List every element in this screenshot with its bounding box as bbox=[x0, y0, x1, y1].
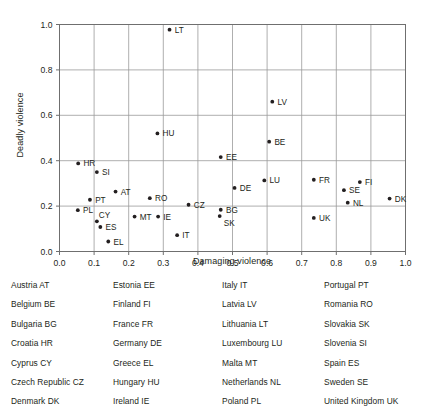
data-point-label: HR bbox=[83, 159, 95, 168]
y-tick-label: 0.6 bbox=[41, 110, 53, 120]
grid-lines bbox=[60, 25, 406, 252]
country-key-item: Spain ES bbox=[324, 354, 398, 373]
data-point-label: FI bbox=[365, 178, 372, 187]
y-axis-title: Deadly violence bbox=[15, 65, 25, 185]
country-key-item: Estonia EE bbox=[113, 276, 162, 295]
data-point-label: LT bbox=[175, 26, 184, 35]
country-key-column-1: Austria ATBelgium BEBulgaria BGCroatia H… bbox=[11, 276, 84, 412]
scatter-plot-canvas: 0.00.10.20.30.40.50.60.70.80.91.00.00.20… bbox=[0, 0, 422, 272]
data-point-label: LU bbox=[270, 176, 281, 185]
country-key-item: United Kingdom UK bbox=[324, 392, 398, 411]
country-key-item: Slovakia SK bbox=[324, 315, 398, 334]
data-point-label: RO bbox=[155, 194, 167, 203]
data-point-si: SI bbox=[95, 168, 110, 177]
data-point-label: CY bbox=[99, 211, 111, 220]
data-point-it: IT bbox=[175, 231, 189, 240]
country-key-item: Portugal PT bbox=[324, 276, 398, 295]
data-point-marker bbox=[312, 216, 316, 220]
data-point-label: AT bbox=[121, 188, 131, 197]
country-key-item: Belgium BE bbox=[11, 295, 84, 314]
data-point-label: FR bbox=[319, 176, 330, 185]
data-point-marker bbox=[219, 208, 223, 212]
data-point-lv: LV bbox=[270, 98, 287, 107]
data-point-marker bbox=[133, 215, 137, 219]
data-point-marker bbox=[233, 186, 237, 190]
data-point-cz: CZ bbox=[187, 201, 205, 210]
data-point-marker bbox=[156, 215, 160, 219]
data-point-label: SI bbox=[102, 168, 110, 177]
data-point-label: DE bbox=[240, 184, 252, 193]
data-point-marker bbox=[219, 155, 223, 159]
data-point-marker bbox=[76, 162, 80, 166]
data-point-marker bbox=[156, 132, 160, 136]
data-point-marker bbox=[98, 225, 102, 229]
x-axis-title: Damaging violence bbox=[59, 256, 405, 266]
country-key-item: France FR bbox=[113, 315, 162, 334]
y-tick-label: 1.0 bbox=[41, 20, 53, 30]
country-key-item: Slovenia SI bbox=[324, 334, 398, 353]
data-point-label: ES bbox=[106, 223, 117, 232]
data-point-label: HU bbox=[163, 129, 175, 138]
data-point-pl: PL bbox=[76, 206, 94, 215]
y-tick-label: 0.0 bbox=[41, 247, 53, 257]
data-point-marker bbox=[262, 179, 266, 183]
data-point-label: MT bbox=[140, 213, 152, 222]
country-key-item: Netherlands NL bbox=[222, 373, 282, 392]
data-points-group: LTLVHUBEEEHRSIFILUFRDESEATRODKPTNLCZPLBG… bbox=[76, 26, 407, 247]
data-point-marker bbox=[95, 219, 99, 223]
data-point-marker bbox=[148, 196, 152, 200]
data-point-label: EL bbox=[113, 238, 123, 247]
data-point-de: DE bbox=[233, 184, 252, 193]
data-point-ro: RO bbox=[148, 194, 167, 203]
country-key-item: Luxembourg LU bbox=[222, 334, 282, 353]
country-key-item: Greece EL bbox=[113, 354, 162, 373]
data-point-label: IE bbox=[163, 213, 171, 222]
data-point-at: AT bbox=[114, 188, 131, 197]
country-key-item: Denmark DK bbox=[11, 392, 84, 411]
data-point-label: UK bbox=[319, 214, 331, 223]
y-tick-label: 0.4 bbox=[41, 156, 53, 166]
data-point-marker bbox=[342, 188, 346, 192]
data-point-uk: UK bbox=[312, 214, 331, 223]
data-point-marker bbox=[388, 197, 392, 201]
data-point-label: BG bbox=[226, 206, 238, 215]
data-point-hu: HU bbox=[156, 129, 175, 138]
country-key-item: Poland PL bbox=[222, 392, 282, 411]
data-point-fi: FI bbox=[358, 178, 372, 187]
country-key-item: Austria AT bbox=[11, 276, 84, 295]
data-point-lu: LU bbox=[262, 176, 280, 185]
data-point-marker bbox=[106, 240, 110, 244]
data-point-label: IT bbox=[182, 231, 189, 240]
data-point-marker bbox=[114, 190, 118, 194]
country-key-column-3: Italy ITLatvia LVLithuania LTLuxembourg … bbox=[222, 276, 282, 412]
data-point-es: ES bbox=[98, 223, 117, 232]
data-point-se: SE bbox=[342, 186, 361, 195]
data-point-label: EE bbox=[226, 153, 237, 162]
data-point-marker bbox=[187, 203, 191, 207]
country-key-column-4: Portugal PTRomania ROSlovakia SKSlovenia… bbox=[324, 276, 398, 412]
data-point-label: NL bbox=[353, 199, 364, 208]
data-point-label: CZ bbox=[194, 201, 205, 210]
data-point-dk: DK bbox=[388, 195, 407, 204]
country-key-item: Finland FI bbox=[113, 295, 162, 314]
y-tick-label: 0.2 bbox=[41, 201, 53, 211]
data-point-bg: BG bbox=[219, 206, 238, 215]
country-key-item: Czech Republic CZ bbox=[11, 373, 84, 392]
country-key-column-2: Estonia EEFinland FIFrance FRGermany DEG… bbox=[113, 276, 162, 412]
data-point-fr: FR bbox=[312, 176, 330, 185]
country-key-item: Italy IT bbox=[222, 276, 282, 295]
country-key-item: Sweden SE bbox=[324, 373, 398, 392]
country-key-item: Romania RO bbox=[324, 295, 398, 314]
country-key-item: Hungary HU bbox=[113, 373, 162, 392]
data-point-cy: CY bbox=[95, 211, 111, 223]
data-point-el: EL bbox=[106, 238, 124, 247]
data-point-label: SE bbox=[349, 186, 360, 195]
data-point-marker bbox=[95, 170, 99, 174]
y-axis-ticks: 0.00.20.40.60.81.0 bbox=[41, 20, 60, 257]
data-point-label: SK bbox=[224, 219, 235, 228]
data-point-label: LV bbox=[277, 98, 287, 107]
country-key-item: Latvia LV bbox=[222, 295, 282, 314]
country-key-item: Ireland IE bbox=[113, 392, 162, 411]
data-point-marker bbox=[346, 201, 350, 205]
data-point-mt: MT bbox=[133, 213, 152, 222]
